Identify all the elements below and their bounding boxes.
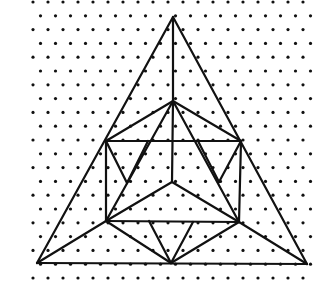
grid-dot [309, 152, 312, 155]
grid-dot [61, 111, 64, 114]
grid-dot [301, 111, 304, 114]
grid-dot [271, 83, 274, 86]
grid-dot [121, 276, 124, 279]
grid-dot [234, 125, 237, 128]
grid-dot [31, 111, 34, 114]
grid-dot [189, 152, 192, 155]
grid-dot [69, 152, 72, 155]
grid-dot [204, 97, 207, 100]
grid-dot [114, 42, 117, 45]
grid-dot [31, 28, 34, 31]
grid-dot [91, 276, 94, 279]
edge-P2-Q2 [198, 141, 219, 182]
grid-dot [196, 276, 199, 279]
grid-dot [204, 125, 207, 128]
grid-dot [196, 166, 199, 169]
grid-dot [249, 207, 252, 210]
grid-dot [271, 166, 274, 169]
grid-dot [189, 180, 192, 183]
grid-dot [61, 249, 64, 252]
grid-dot [54, 14, 57, 17]
grid-dot [46, 194, 49, 197]
grid-dot [129, 14, 132, 17]
grid-dot [144, 42, 147, 45]
grid-dot [264, 14, 267, 17]
grid-dot [271, 56, 274, 59]
grid-dot [46, 28, 49, 31]
grid-dot [279, 42, 282, 45]
grid-dot [211, 194, 214, 197]
diagram-canvas [0, 0, 333, 301]
grid-dot [151, 28, 154, 31]
grid-dot [241, 0, 244, 3]
grid-dot [234, 207, 237, 210]
grid-dot [256, 111, 259, 114]
grid-dot [91, 194, 94, 197]
grid-dot [286, 166, 289, 169]
edge-P1-Q1 [127, 141, 148, 183]
grid-dot [91, 83, 94, 86]
grid-dot [61, 138, 64, 141]
grid-dot [61, 0, 64, 3]
grid-dot [46, 276, 49, 279]
grid-dot [114, 14, 117, 17]
grid-dot [219, 152, 222, 155]
grid-dot [114, 152, 117, 155]
grid-dot [39, 235, 42, 238]
grid-dot [294, 125, 297, 128]
grid-dot [309, 125, 312, 128]
grid-dot [159, 180, 162, 183]
grid-dot [196, 83, 199, 86]
grid-dot [136, 194, 139, 197]
grid-dot [226, 0, 229, 3]
grid-dot [159, 207, 162, 210]
grid-dot [301, 83, 304, 86]
grid-dot [121, 28, 124, 31]
grid-dot [204, 69, 207, 72]
grid-dot [309, 263, 312, 266]
grid-dot [174, 42, 177, 45]
grid-dot [249, 235, 252, 238]
grid-dot [301, 194, 304, 197]
grid-dot [84, 152, 87, 155]
grid-dot [61, 194, 64, 197]
grid-dot [39, 207, 42, 210]
grid-dot [76, 28, 79, 31]
grid-dot [61, 28, 64, 31]
grid-dot [256, 249, 259, 252]
grid-dot [84, 207, 87, 210]
grid-dot [294, 207, 297, 210]
grid-dot [189, 69, 192, 72]
grid-dot [99, 69, 102, 72]
grid-dot [301, 0, 304, 3]
grid-dot [241, 249, 244, 252]
grid-dot [166, 56, 169, 59]
grid-dot [211, 56, 214, 59]
grid-dot [219, 97, 222, 100]
grid-dot [159, 152, 162, 155]
grid-dot [264, 152, 267, 155]
grid-dot [76, 194, 79, 197]
grid-dot [264, 125, 267, 128]
grid-dot [39, 125, 42, 128]
grid-dot [91, 138, 94, 141]
grid-dot [39, 152, 42, 155]
grid-dot [271, 111, 274, 114]
grid-dot [39, 180, 42, 183]
grid-dot [121, 249, 124, 252]
grid-dot [31, 56, 34, 59]
grid-dot [84, 69, 87, 72]
grid-dot [136, 28, 139, 31]
grid-dot [136, 249, 139, 252]
grid-dot [181, 56, 184, 59]
grid-dot [114, 69, 117, 72]
grid-dot [196, 28, 199, 31]
grid-dot [309, 69, 312, 72]
grid-dot [151, 83, 154, 86]
grid-dot [144, 97, 147, 100]
grid-dot [46, 166, 49, 169]
grid-dot [76, 166, 79, 169]
grid-dot [91, 56, 94, 59]
grid-dot [136, 111, 139, 114]
grid-dot [159, 69, 162, 72]
